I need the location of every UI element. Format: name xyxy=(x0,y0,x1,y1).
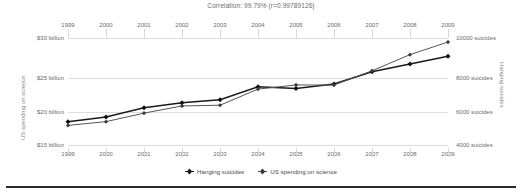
x-tick-label-top-2000: 2000 xyxy=(89,22,123,28)
left-tick-label-30b: $30 billion xyxy=(2,35,64,41)
data-point-1-2003 xyxy=(218,103,222,107)
x-tick-mark-bottom-2003 xyxy=(220,148,221,157)
x-tick-label-top-2008: 2008 xyxy=(393,22,427,28)
footer-divider xyxy=(6,186,516,188)
data-point-1-1999 xyxy=(66,123,70,127)
x-tick-label-top-2004: 2004 xyxy=(241,22,275,28)
plot-area xyxy=(68,38,448,148)
x-tick-mark-top-2002 xyxy=(182,29,183,38)
chart-legend: Hanging suicides US spending on science xyxy=(0,168,522,175)
x-tick-mark-top-2000 xyxy=(106,29,107,38)
x-tick-label-top-1999: 1999 xyxy=(51,22,85,28)
x-tick-mark-bottom-2005 xyxy=(296,148,297,157)
x-tick-label-top-2002: 2002 xyxy=(165,22,199,28)
x-tick-mark-bottom-2009 xyxy=(448,148,449,157)
chart-root: Correlation: 99.79% (r=0.99789126) US sp… xyxy=(0,0,522,195)
legend-marker-diamond-icon xyxy=(185,168,194,175)
x-tick-mark-top-2004 xyxy=(258,29,259,38)
data-point-1-2001 xyxy=(142,111,146,115)
left-axis-title: US spending on science xyxy=(20,75,26,140)
legend-item-us-spending[interactable]: US spending on science xyxy=(258,168,337,175)
x-tick-mark-bottom-2000 xyxy=(106,148,107,157)
x-tick-mark-top-1999 xyxy=(68,29,69,38)
x-tick-mark-bottom-2007 xyxy=(372,148,373,157)
data-point-0-2000 xyxy=(104,115,109,120)
series-lines xyxy=(68,38,448,148)
legend-label-hanging-suicides: Hanging suicides xyxy=(197,168,244,175)
x-tick-mark-bottom-1999 xyxy=(68,148,69,157)
data-point-1-2005 xyxy=(294,83,298,87)
x-tick-mark-bottom-2006 xyxy=(334,148,335,157)
right-tick-label-6000: 6000 suicides xyxy=(456,109,493,115)
x-tick-mark-top-2007 xyxy=(372,29,373,38)
right-tick-label-8000: 8000 suicides xyxy=(456,75,493,81)
x-tick-mark-top-2009 xyxy=(448,29,449,38)
right-tick-label-4000: 4000 suicides xyxy=(456,142,493,148)
x-tick-mark-bottom-2008 xyxy=(410,148,411,157)
data-point-1-2009 xyxy=(446,40,450,44)
x-tick-label-top-2001: 2001 xyxy=(127,22,161,28)
right-tick-label-10000: 10000 suicides xyxy=(456,35,496,41)
legend-item-hanging-suicides[interactable]: Hanging suicides xyxy=(185,168,244,175)
data-point-1-2002 xyxy=(180,104,184,108)
data-point-0-2008 xyxy=(408,62,413,67)
left-tick-label-20b: $20 billion xyxy=(2,109,64,115)
x-tick-mark-bottom-2004 xyxy=(258,148,259,157)
data-point-0-2003 xyxy=(218,97,223,102)
x-tick-mark-top-2008 xyxy=(410,29,411,38)
left-tick-label-25b: $25 billion xyxy=(2,75,64,81)
x-tick-mark-bottom-2002 xyxy=(182,148,183,157)
data-point-0-2001 xyxy=(142,105,147,110)
left-tick-label-15b: $15 billion xyxy=(2,142,64,148)
x-tick-label-top-2006: 2006 xyxy=(317,22,351,28)
x-tick-label-top-2007: 2007 xyxy=(355,22,389,28)
x-tick-mark-bottom-2001 xyxy=(144,148,145,157)
x-tick-mark-top-2001 xyxy=(144,29,145,38)
data-point-1-2008 xyxy=(408,53,412,57)
chart-title: Correlation: 99.79% (r=0.99789126) xyxy=(0,2,522,9)
data-point-0-2009 xyxy=(446,54,451,59)
right-axis-title: Hanging suicides xyxy=(499,62,505,108)
x-tick-label-top-2003: 2003 xyxy=(203,22,237,28)
x-tick-label-top-2005: 2005 xyxy=(279,22,313,28)
x-tick-label-top-2009: 2009 xyxy=(431,22,465,28)
x-tick-mark-top-2003 xyxy=(220,29,221,38)
legend-label-us-spending: US spending on science xyxy=(270,168,337,175)
x-tick-mark-top-2006 xyxy=(334,29,335,38)
data-point-1-2000 xyxy=(104,120,108,124)
legend-marker-diamond-icon xyxy=(258,168,267,175)
x-tick-mark-top-2005 xyxy=(296,29,297,38)
